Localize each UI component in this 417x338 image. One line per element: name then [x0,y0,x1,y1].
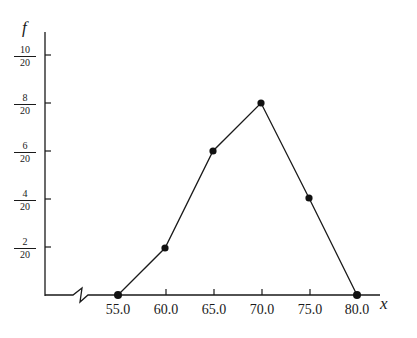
y-tick-label-2-20: 220 [14,237,36,260]
point-75 [305,194,312,201]
y-ticks [45,55,51,247]
point-80 [353,291,361,299]
y-tick-label-6-20: 620 [14,141,36,164]
data-points [114,99,361,299]
x-axis-title: x [380,294,388,314]
point-60 [161,244,168,251]
point-65 [209,147,216,154]
x-tick-label-80: 80.0 [337,302,377,318]
x-axis [45,288,380,302]
y-tick-label-4-20: 420 [14,189,36,212]
x-tick-label-70: 70.0 [242,302,282,318]
point-55 [114,291,122,299]
x-tick-label-75: 75.0 [290,302,330,318]
y-tick-label-8-20: 820 [14,93,36,116]
frequency-polygon-chart [0,0,417,338]
point-70 [257,99,264,106]
y-tick-label-10-20: 1020 [14,45,36,68]
x-tick-label-65: 65.0 [194,302,234,318]
x-tick-label-60: 60.0 [146,302,186,318]
frequency-line [118,103,357,295]
x-tick-label-55: 55.0 [98,302,138,318]
y-axis-title: f [22,18,27,38]
x-ticks [166,289,310,295]
